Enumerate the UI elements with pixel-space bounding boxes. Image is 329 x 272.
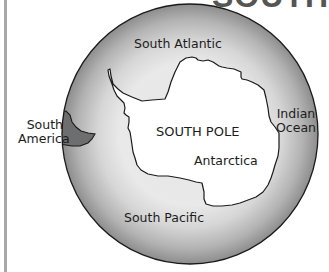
label-south-america-line2: America bbox=[18, 132, 63, 146]
label-south-pacific: South Pacific bbox=[124, 211, 204, 225]
label-indian-ocean: Indian Ocean bbox=[275, 107, 317, 135]
label-indian-ocean-line2: Ocean bbox=[275, 121, 317, 135]
label-south-pole: SOUTH POLE bbox=[156, 125, 239, 139]
label-indian-ocean-line1: Indian bbox=[275, 107, 317, 121]
label-south-america-line1: South bbox=[18, 118, 63, 132]
label-south-atlantic: South Atlantic bbox=[134, 37, 222, 51]
label-antarctica: Antarctica bbox=[194, 154, 258, 168]
label-south-america: South America bbox=[18, 118, 63, 146]
